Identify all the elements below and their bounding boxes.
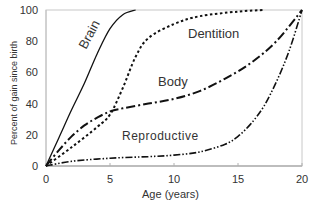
series-labels: Brain Dentition Body Reproductive: [75, 18, 239, 143]
label-dentition: Dentition: [188, 26, 239, 41]
x-axis-label: Age (years): [142, 188, 199, 200]
y-tick-label: 100: [20, 4, 38, 16]
y-tick-label: 80: [26, 35, 38, 47]
label-reproductive: Reproductive: [122, 129, 199, 143]
x-tick-label: 0: [43, 173, 49, 185]
y-axis-label: Percent of gain since birth: [9, 41, 19, 145]
x-tick-label: 10: [168, 173, 180, 185]
x-tick-label: 5: [107, 173, 113, 185]
label-brain: Brain: [75, 18, 102, 52]
y-tick-label: 40: [26, 98, 38, 110]
y-tick-label: 20: [26, 129, 38, 141]
y-tick-label: 60: [26, 66, 38, 78]
label-body: Body: [158, 74, 188, 89]
growth-curves-chart: 02040608010005101520 Brain Dentition Bod…: [0, 0, 313, 207]
x-tick-label: 20: [296, 173, 308, 185]
x-tick-label: 15: [232, 173, 244, 185]
y-tick-label: 0: [32, 160, 38, 172]
axes: 02040608010005101520: [20, 4, 308, 185]
